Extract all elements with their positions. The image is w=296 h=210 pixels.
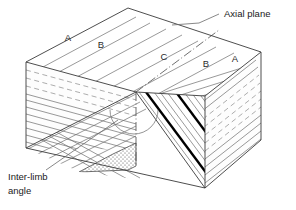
block-diagram-svg: A B C B A Axial plane Inter-limb angle [0, 0, 296, 210]
unit-label-a-left: A [65, 32, 72, 43]
block-diagram-figure: A B C B A Axial plane Inter-limb angle [0, 0, 296, 210]
unit-label-b-right: B [203, 58, 209, 69]
unit-label-a-right: A [232, 53, 239, 64]
axial-plane-label: Axial plane [224, 8, 270, 19]
inter-limb-angle-label-line2: angle [8, 185, 31, 196]
inter-limb-angle-label-line1: Inter-limb [8, 171, 48, 182]
unit-label-b-left: B [98, 39, 104, 50]
axial-plane-leader [199, 14, 219, 23]
unit-label-c-core: C [161, 51, 168, 62]
